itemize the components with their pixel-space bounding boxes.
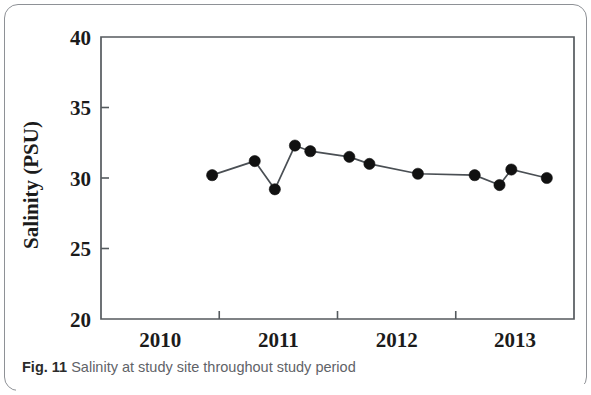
data-point-marker [249,155,260,166]
y-tick-label: 35 [70,96,91,120]
y-tick-label: 25 [70,237,91,261]
data-point-marker [269,184,280,195]
data-point-marker [364,158,375,169]
x-tick-label: 2012 [376,328,418,350]
x-tick-label: 2011 [258,328,299,350]
data-series-salinity [207,140,553,195]
data-point-marker [494,179,505,190]
figure-label: Fig. 11 [22,359,67,375]
data-point-marker [207,170,218,181]
data-point-marker [305,146,316,157]
x-tick-label: 2013 [494,328,536,350]
figure-caption: Fig. 11 Salinity at study site throughou… [22,358,582,376]
plot-frame-box [101,37,574,319]
plot-frame [101,37,574,319]
data-point-marker [289,140,300,151]
chart-plot-area: 2025303540 2010201120122013 Salinity (PS… [0,0,591,350]
data-point-marker [541,172,552,183]
y-tick-label: 30 [70,167,91,191]
y-axis-title: Salinity (PSU) [19,121,43,249]
data-point-marker [412,168,423,179]
x-axis-ticks: 2010201120122013 [139,311,536,350]
y-tick-label: 20 [70,308,91,332]
x-tick-label: 2010 [139,328,181,350]
card-bottom-mask [16,384,591,395]
figure-container: 2025303540 2010201120122013 Salinity (PS… [0,0,591,395]
data-point-marker [469,170,480,181]
y-tick-label: 40 [70,26,91,50]
salinity-line-chart: 2025303540 2010201120122013 Salinity (PS… [0,0,591,350]
data-point-marker [506,164,517,175]
data-point-marker [344,151,355,162]
figure-caption-text: Salinity at study site throughout study … [71,359,356,375]
y-axis-ticks: 2025303540 [70,26,109,332]
